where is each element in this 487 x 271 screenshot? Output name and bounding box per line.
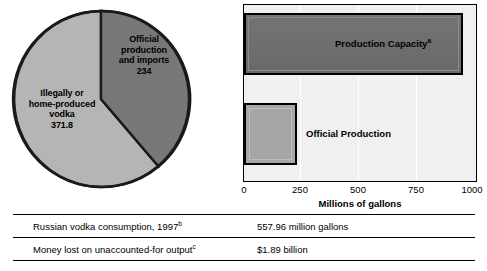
xtick-500: 500 <box>350 184 366 195</box>
bar-label-production-capacity-superscript: a <box>427 37 431 44</box>
bar-label-production-capacity: Production Capacitya <box>335 38 431 49</box>
pie-label-illegal-line3: vodka <box>13 109 111 120</box>
table-row-label-superscript: b <box>178 219 182 226</box>
bar-chart-axis-title: Millions of gallons <box>243 198 477 209</box>
bar-official-production <box>244 103 297 165</box>
pie-label-illegal-line1: Illegally or <box>13 88 111 99</box>
pie-label-official-production: Official production and imports 234 <box>104 34 184 76</box>
bar-label-production-capacity-text: Production Capacity <box>335 38 427 49</box>
pie-value-illegal: 371.8 <box>13 120 111 131</box>
table-row-label-text: Money lost on unaccounted-for output <box>33 244 193 255</box>
table-row-label: Money lost on unaccounted-for outputc <box>13 244 241 255</box>
pie-chart: Illegally or home-produced vodka 371.8 O… <box>8 4 203 194</box>
bar-chart: Production Capacitya Official Production… <box>238 4 481 190</box>
table-row-value: $1.89 billion <box>241 244 475 255</box>
table-rule-bottom <box>13 260 475 261</box>
table-row-value: 557.96 million gallons <box>241 221 475 232</box>
summary-table: Russian vodka consumption, 1997b 557.96 … <box>13 214 475 261</box>
xtick-250: 250 <box>292 184 308 195</box>
pie-label-official-line2: production <box>104 45 184 56</box>
bar-chart-x-axis-ticks: 0 250 500 750 1000 <box>243 184 477 197</box>
pie-label-official-line3: and imports <box>104 55 184 66</box>
table-row-label: Russian vodka consumption, 1997b <box>13 221 241 232</box>
pie-label-illegal-vodka: Illegally or home-produced vodka 371.8 <box>13 88 111 130</box>
table-row-label-text: Russian vodka consumption, 1997 <box>33 221 178 232</box>
table-row-label-superscript: c <box>193 242 196 249</box>
pie-label-illegal-line2: home-produced <box>13 99 111 110</box>
table-row: Russian vodka consumption, 1997b 557.96 … <box>13 215 475 237</box>
bar-official-production-inner <box>249 108 292 160</box>
bar-label-official-production: Official Production <box>306 128 391 139</box>
xtick-1000: 1000 <box>461 184 482 195</box>
xtick-0: 0 <box>241 184 246 195</box>
pie-label-official-line1: Official <box>104 34 184 45</box>
xtick-750: 750 <box>408 184 424 195</box>
pie-value-official: 234 <box>104 66 184 77</box>
bar-chart-plot-area: Production Capacitya Official Production <box>243 4 477 182</box>
table-row: Money lost on unaccounted-for outputc $1… <box>13 238 475 260</box>
figure-panel: Illegally or home-produced vodka 371.8 O… <box>0 0 487 271</box>
